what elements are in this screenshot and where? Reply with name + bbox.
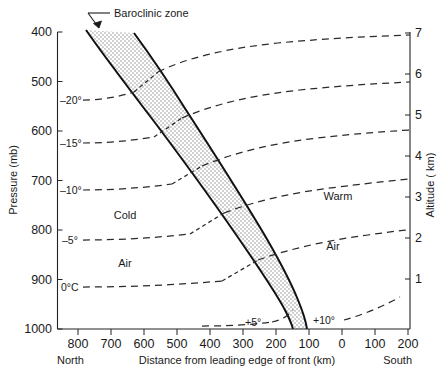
bottom-tick-label-0: 0 (339, 337, 346, 351)
bottom-tick-label-minus-100: 100 (365, 337, 386, 351)
right-tick-label-2: 2 (415, 231, 422, 245)
bottom-tick-label-700: 700 (101, 337, 122, 351)
right-tick-label-7: 7 (415, 26, 422, 40)
left-tick-label-500: 500 (31, 75, 52, 89)
direction-label-north: North (57, 354, 84, 366)
left-tick-label-1000: 1000 (24, 322, 52, 336)
isotherm-label-minus-15: –15° (60, 137, 82, 149)
left-tick-label-800: 800 (31, 223, 52, 237)
isotherm-label-minus-5: –5° (62, 234, 78, 246)
left-axis-title: Pressure (mb) (7, 145, 19, 215)
left-tick-label-600: 600 (31, 124, 52, 138)
right-tick-label-4: 4 (415, 149, 422, 163)
bottom-tick-label-600: 600 (134, 337, 155, 351)
isotherm-label-zero: 0°C (61, 281, 79, 293)
direction-label-south: South (383, 354, 412, 366)
bottom-tick-label-400: 400 (200, 337, 221, 351)
cold-air-label-line1: Cold (114, 209, 137, 221)
bottom-axis-title: Distance from leading edge of front (km) (139, 354, 335, 366)
isotherm-label-minus-10: –10° (60, 184, 82, 196)
cold-air-label-line2: Air (118, 257, 132, 269)
right-tick-label-5: 5 (415, 108, 422, 122)
baroclinic-zone-annotation-label: Baroclinic zone (114, 7, 189, 19)
right-tick-label-1: 1 (415, 272, 422, 286)
right-tick-label-3: 3 (415, 190, 422, 204)
isotherm-label-plus-10: +10° (313, 314, 335, 326)
bottom-tick-label-200: 200 (266, 337, 287, 351)
left-tick-label-700: 700 (31, 174, 52, 188)
warm-air-label-line2: Air (326, 240, 340, 252)
bottom-tick-label-800: 800 (68, 337, 89, 351)
right-axis-title: Altitude ( km) (424, 153, 436, 218)
left-tick-label-400: 400 (31, 25, 52, 39)
warm-air-label-line1: Warm (324, 190, 353, 202)
left-tick-label-900: 900 (31, 273, 52, 287)
isotherm-label-plus-5: +5° (245, 316, 261, 328)
isotherm-label-minus-20: –20° (60, 94, 82, 106)
bottom-tick-label-300: 300 (233, 337, 254, 351)
bottom-tick-label-500: 500 (167, 337, 188, 351)
bottom-tick-label-100: 100 (299, 337, 320, 351)
baroclinic-zone-cross-section-figure: 400 500 600 700 800 900 1000 Pressure (m… (0, 0, 441, 371)
right-tick-label-6: 6 (415, 67, 422, 81)
bottom-tick-label-minus-200: 200 (398, 337, 419, 351)
